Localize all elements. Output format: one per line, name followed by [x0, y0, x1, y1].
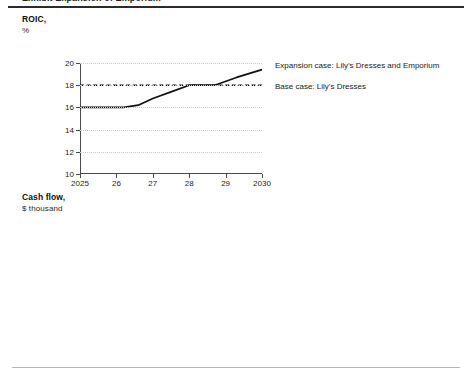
y-tick-roic [76, 107, 80, 108]
x-tick-roic [153, 174, 154, 178]
legend-item-base-case: Base case: Lily’s Dresses [268, 79, 439, 94]
chart-panel-roic: ROIC, % 1012141618202025262728292030 Exp… [0, 14, 472, 186]
x-tick-roic [226, 174, 227, 178]
x-tick-roic [262, 174, 263, 178]
gridline-roic [80, 63, 262, 64]
exhibit-title: Exhibit Expansion of Emporium [22, 0, 161, 3]
series-line-expansion-case [80, 70, 262, 108]
plot-area-roic: 1012141618202025262728292030 [80, 63, 262, 174]
x-tick-label-roic: 29 [221, 179, 230, 188]
x-tick-roic [80, 174, 81, 178]
legend-label: Base case: Lily’s Dresses [275, 82, 366, 91]
chart-subtitle-cash-flow: $ thousand [22, 204, 63, 213]
y-tick-roic [76, 152, 80, 153]
chart-title-cash-flow: Cash flow, [22, 192, 65, 202]
gridline-roic [80, 85, 262, 86]
y-tick-label-roic: 20 [65, 59, 74, 68]
gridline-roic [80, 107, 262, 108]
series-lines-roic [80, 63, 262, 174]
gridline-roic [80, 152, 262, 153]
top-divider [8, 6, 464, 8]
x-tick-label-roic: 2030 [253, 179, 271, 188]
x-tick-label-roic: 27 [148, 179, 157, 188]
y-tick-label-roic: 18 [65, 81, 74, 90]
y-tick-label-roic: 14 [65, 125, 74, 134]
x-tick-roic [189, 174, 190, 178]
x-tick-label-roic: 28 [185, 179, 194, 188]
legend-label: Expansion case: Lily’s Dresses and Empor… [275, 61, 439, 70]
y-tick-roic [76, 63, 80, 64]
gridline-roic [80, 130, 262, 131]
bottom-divider [12, 367, 460, 368]
y-tick-label-roic: 12 [65, 147, 74, 156]
chart-panel-cash-flow: Cash flow, $ thousand 05001,0001,5002,00… [0, 192, 472, 362]
y-tick-label-roic: 16 [65, 103, 74, 112]
chart-subtitle-roic: % [22, 26, 29, 35]
x-tick-roic [116, 174, 117, 178]
y-tick-label-roic: 10 [65, 170, 74, 179]
legend-item-expansion-case: Expansion case: Lily’s Dresses and Empor… [268, 58, 439, 73]
chart-title-roic: ROIC, [22, 14, 46, 24]
x-tick-label-roic: 2025 [71, 179, 89, 188]
x-tick-label-roic: 26 [112, 179, 121, 188]
y-tick-roic [76, 85, 80, 86]
y-tick-roic [76, 130, 80, 131]
legend-roic: Expansion case: Lily’s Dresses and Empor… [268, 58, 439, 100]
